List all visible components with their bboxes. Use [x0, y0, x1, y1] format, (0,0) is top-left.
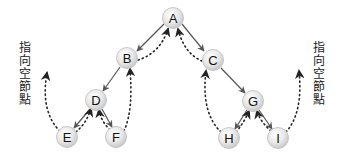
node-A: A — [163, 8, 184, 29]
thread-H-G — [236, 111, 249, 132]
node-label-G: G — [248, 94, 258, 109]
edge-B-D — [103, 67, 120, 91]
node-label-I: I — [276, 131, 280, 146]
thread-F-B — [124, 69, 131, 131]
thread-E-null — [45, 73, 60, 131]
edge-D-F — [102, 109, 112, 127]
node-F: F — [106, 127, 127, 148]
thread-E-D — [76, 109, 91, 132]
null-pointer-label-right: 指向空節點 — [312, 42, 326, 107]
node-label-H: H — [224, 131, 233, 146]
node-C: C — [203, 50, 224, 71]
node-E: E — [57, 127, 78, 148]
node-label-F: F — [112, 130, 120, 145]
edge-A-B — [137, 24, 164, 51]
thread-B-A — [138, 29, 168, 60]
node-B: B — [117, 48, 138, 69]
tree-canvas: A B C D E F G — [0, 0, 344, 163]
node-D: D — [86, 90, 107, 111]
edge-G-H — [235, 110, 247, 129]
node-H: H — [219, 128, 240, 149]
edge-C-G — [221, 68, 245, 93]
thread-I-null — [286, 71, 300, 132]
threaded-binary-tree-diagram: A B C D E F G — [0, 0, 344, 163]
node-I: I — [268, 128, 289, 149]
node-label-A: A — [169, 11, 178, 26]
node-G: G — [243, 91, 264, 112]
thread-H-C — [205, 71, 221, 132]
thread-I-G — [257, 111, 271, 131]
child-edges — [74, 24, 272, 129]
node-label-D: D — [91, 93, 100, 108]
node-label-E: E — [63, 130, 72, 145]
null-pointer-label-left: 指向空節點 — [18, 42, 32, 107]
node-label-B: B — [123, 51, 132, 66]
edge-G-I — [259, 110, 272, 129]
node-label-C: C — [208, 53, 217, 68]
tree-nodes: A B C D E F G — [57, 8, 289, 149]
